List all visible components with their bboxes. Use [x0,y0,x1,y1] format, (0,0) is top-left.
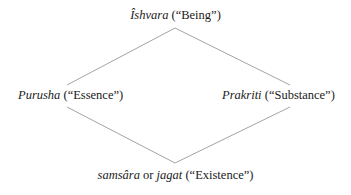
node-gloss-ishvara: (“Being”) [172,8,221,22]
node-label-ishvara: Îshvara (“Being”) [127,9,224,23]
node-label-purusha: Purusha (“Essence”) [15,89,126,103]
edge-prakriti-samsara [175,107,290,163]
edge-ishvara-purusha [67,28,175,85]
node-label-prakriti: Prakriti (“Substance”) [219,89,338,103]
node-gloss-prakriti: (“Substance”) [265,88,335,102]
node-term-samsara: samsâra [98,168,140,182]
node-label-samsara: samsâra or jagat (“Existence”) [95,169,257,183]
diagram-canvas: Îshvara (“Being”) Purusha (“Essence”) Pr… [0,0,351,195]
node-gloss-samsara: (“Existence”) [185,168,253,182]
node-term-ishvara: Îshvara [130,8,168,22]
node-term-prakriti: Prakriti [222,88,262,102]
node-gloss-purusha: (“Essence”) [64,88,124,102]
node-term-purusha: Purusha [18,88,60,102]
node-conjunction-or: or [143,168,153,182]
node-term-jagat: jagat [157,168,183,182]
edge-purusha-samsara [67,107,175,163]
edge-ishvara-prakriti [175,28,290,85]
